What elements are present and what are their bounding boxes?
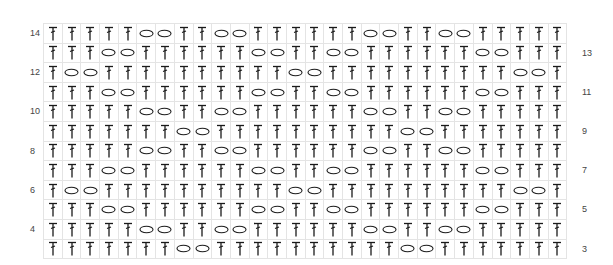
stitch-cell — [119, 24, 138, 44]
chain-stitch-icon — [101, 88, 116, 97]
stitch-cell — [194, 24, 213, 44]
stitch-cell — [530, 161, 549, 181]
treble-crochet-icon — [366, 163, 376, 178]
stitch-cell — [530, 122, 549, 142]
stitch-cell — [137, 83, 156, 103]
row-number-label: 6 — [30, 185, 35, 195]
stitch-cell — [231, 240, 250, 260]
treble-crochet-icon — [403, 85, 413, 100]
stitch-cell — [81, 122, 100, 142]
treble-crochet-icon — [515, 202, 525, 217]
treble-crochet-icon — [216, 241, 226, 256]
treble-crochet-icon — [384, 202, 394, 217]
stitch-cell — [530, 44, 549, 64]
stitch-cell — [380, 102, 399, 122]
stitch-cell — [436, 220, 455, 240]
stitch-cell — [100, 200, 119, 220]
stitch-cell — [324, 122, 343, 142]
stitch-cell — [156, 24, 175, 44]
stitch-cell — [44, 161, 63, 181]
stitch-cell — [306, 44, 325, 64]
stitch-cell — [119, 122, 138, 142]
stitch-cell — [81, 142, 100, 162]
treble-crochet-icon — [515, 241, 525, 256]
crochet-chart: 14131211109876543 — [0, 0, 613, 265]
stitch-cell — [493, 161, 512, 181]
stitch-cell — [63, 24, 82, 44]
chain-stitch-icon — [157, 225, 172, 234]
chain-stitch-icon — [232, 225, 247, 234]
treble-crochet-icon — [85, 45, 95, 60]
stitch-cell — [324, 220, 343, 240]
treble-crochet-icon — [422, 222, 432, 237]
stitch-cell — [324, 102, 343, 122]
treble-crochet-icon — [197, 222, 207, 237]
stitch-cell — [137, 44, 156, 64]
row-number-label: 9 — [582, 126, 587, 136]
stitch-cell — [380, 181, 399, 201]
stitch-cell — [549, 142, 568, 162]
treble-crochet-icon — [515, 143, 525, 158]
treble-crochet-icon — [179, 143, 189, 158]
treble-crochet-icon — [179, 45, 189, 60]
treble-crochet-icon — [422, 143, 432, 158]
treble-crochet-icon — [67, 45, 77, 60]
treble-crochet-icon — [272, 222, 282, 237]
stitch-cell — [324, 83, 343, 103]
treble-crochet-icon — [422, 104, 432, 119]
stitch-cell — [455, 83, 474, 103]
treble-crochet-icon — [309, 241, 319, 256]
treble-crochet-icon — [534, 124, 544, 139]
stitch-cell — [418, 200, 437, 220]
chain-stitch-icon — [344, 205, 359, 214]
row-number-label: 10 — [30, 106, 40, 116]
chain-stitch-icon — [288, 68, 303, 77]
chain-stitch-icon — [139, 107, 154, 116]
stitch-cell — [63, 142, 82, 162]
treble-crochet-icon — [403, 104, 413, 119]
stitch-cell — [63, 122, 82, 142]
treble-crochet-icon — [67, 202, 77, 217]
stitch-cell — [455, 102, 474, 122]
stitch-cell — [119, 220, 138, 240]
stitch-cell — [287, 63, 306, 83]
treble-crochet-icon — [216, 202, 226, 217]
treble-crochet-icon — [534, 163, 544, 178]
treble-crochet-icon — [253, 222, 263, 237]
row-number-label: 14 — [30, 28, 40, 38]
chain-stitch-icon — [344, 88, 359, 97]
treble-crochet-icon — [552, 124, 562, 139]
stitch-cell — [119, 200, 138, 220]
treble-crochet-icon — [291, 143, 301, 158]
chain-stitch-icon — [400, 244, 415, 253]
chain-stitch-icon — [513, 68, 528, 77]
stitch-cell — [175, 200, 194, 220]
row-number-label: 5 — [582, 204, 587, 214]
stitch-cell — [455, 220, 474, 240]
treble-crochet-icon — [496, 222, 506, 237]
treble-crochet-icon — [384, 124, 394, 139]
stitch-cell — [194, 63, 213, 83]
chain-stitch-icon — [307, 186, 322, 195]
stitch-cell — [119, 83, 138, 103]
treble-crochet-icon — [440, 202, 450, 217]
stitch-cell — [81, 44, 100, 64]
chain-stitch-icon — [214, 107, 229, 116]
treble-crochet-icon — [216, 65, 226, 80]
treble-crochet-icon — [459, 124, 469, 139]
treble-crochet-icon — [309, 143, 319, 158]
chain-stitch-icon — [232, 29, 247, 38]
treble-crochet-icon — [478, 143, 488, 158]
treble-crochet-icon — [478, 124, 488, 139]
stitch-cell — [418, 181, 437, 201]
stitch-cell — [399, 83, 418, 103]
treble-crochet-icon — [85, 241, 95, 256]
treble-crochet-icon — [253, 104, 263, 119]
treble-crochet-icon — [459, 85, 469, 100]
treble-crochet-icon — [459, 183, 469, 198]
chain-stitch-icon — [83, 186, 98, 195]
treble-crochet-icon — [216, 124, 226, 139]
chain-stitch-icon — [139, 225, 154, 234]
stitch-cell — [175, 181, 194, 201]
stitch-cell — [418, 24, 437, 44]
